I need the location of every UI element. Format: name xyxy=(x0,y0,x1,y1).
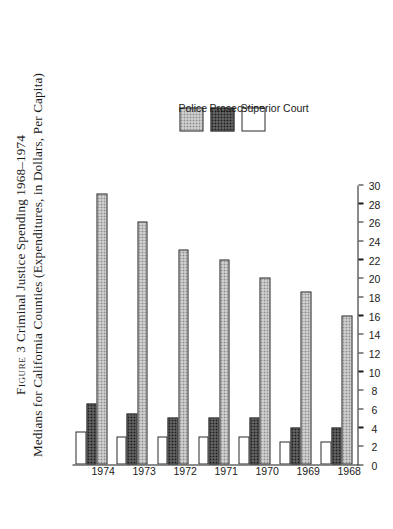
bar-police-1970 xyxy=(259,277,270,464)
axis-tick xyxy=(358,184,363,185)
category-label-1973: 1973 xyxy=(132,464,155,476)
axis-tick-label: 20 xyxy=(368,272,380,284)
category-label-1969: 1969 xyxy=(296,464,319,476)
category-label-1970: 1970 xyxy=(255,464,278,476)
legend-label-police: Police xyxy=(178,101,207,113)
plot-area: 024681012141618202224262830 196819691970… xyxy=(72,165,358,465)
bar-superior-court-1970 xyxy=(238,436,249,464)
figure-title: Figure 3 Criminal Justice Spending 1968–… xyxy=(12,0,46,529)
bar-police-1969 xyxy=(300,291,311,464)
bar-prosecution-1971 xyxy=(208,417,219,464)
bar-police-1971 xyxy=(219,259,230,464)
figure-number-label: Figure 3 xyxy=(12,345,27,395)
bar-prosecution-1969 xyxy=(290,427,301,464)
axis-tick-label: 8 xyxy=(371,384,377,396)
axis-tick xyxy=(358,333,363,334)
legend-item-superior-court[interactable]: Superior Court xyxy=(238,13,268,131)
figure-title-text: Criminal Justice Spending 1968–1974 xyxy=(12,134,27,345)
category-label-1968: 1968 xyxy=(337,464,360,476)
bar-police-1968 xyxy=(341,315,352,464)
figure-root: Figure 3 Criminal Justice Spending 1968–… xyxy=(0,0,393,529)
category-label-1972: 1972 xyxy=(173,464,196,476)
axis-tick-label: 30 xyxy=(368,179,380,191)
axis-tick-label: 28 xyxy=(368,198,380,210)
bar-group-1973: 1973 xyxy=(113,184,154,464)
bar-group-1969: 1969 xyxy=(276,184,317,464)
bar-police-1973 xyxy=(137,221,148,464)
bar-superior-court-1972 xyxy=(157,436,168,464)
bar-prosecution-1972 xyxy=(167,417,178,464)
bar-superior-court-1968 xyxy=(320,441,331,464)
axis-tick-label: 22 xyxy=(368,254,380,266)
axis-tick-label: 4 xyxy=(371,422,377,434)
axis-tick xyxy=(358,352,363,353)
axis-tick xyxy=(358,445,363,446)
legend-label-superior-court: Superior Court xyxy=(240,101,308,113)
bar-superior-court-1974 xyxy=(75,431,86,464)
axis-tick-label: 14 xyxy=(368,328,380,340)
axis-tick-label: 12 xyxy=(368,347,380,359)
bar-superior-court-1973 xyxy=(116,436,127,464)
axis-tick xyxy=(358,221,363,222)
legend-item-police[interactable]: Police xyxy=(176,13,206,131)
bar-prosecution-1970 xyxy=(249,417,260,464)
axis-tick-label: 18 xyxy=(368,291,380,303)
axis-tick xyxy=(358,426,363,427)
bar-prosecution-1968 xyxy=(331,427,342,464)
bar-prosecution-1973 xyxy=(126,413,137,464)
bar-group-1970: 1970 xyxy=(235,184,276,464)
axis-tick xyxy=(358,408,363,409)
axis-tick xyxy=(358,296,363,297)
bar-superior-court-1971 xyxy=(198,436,209,464)
bar-police-1972 xyxy=(178,249,189,464)
bar-group-1971: 1971 xyxy=(195,184,236,464)
figure-title-line-1: Figure 3 Criminal Justice Spending 1968–… xyxy=(12,0,29,529)
bar-group-1972: 1972 xyxy=(154,184,195,464)
axis-tick-label: 26 xyxy=(368,216,380,228)
axis-tick xyxy=(358,314,363,315)
bar-prosecution-1974 xyxy=(86,403,97,464)
axis-tick-label: 16 xyxy=(368,310,380,322)
figure-title-line-2: Medians for California Counties (Expendi… xyxy=(29,0,46,529)
axis-tick-label: 10 xyxy=(368,366,380,378)
bar-police-1974 xyxy=(96,193,107,464)
axis-tick xyxy=(358,240,363,241)
bar-superior-court-1969 xyxy=(279,441,290,464)
legend-item-prosecution[interactable]: Prosecution xyxy=(207,13,237,131)
axis-tick-label: 24 xyxy=(368,235,380,247)
bar-group-1968: 1968 xyxy=(317,184,358,464)
axis-tick xyxy=(358,277,363,278)
category-label-1971: 1971 xyxy=(214,464,237,476)
axis-tick-label: 2 xyxy=(371,440,377,452)
chart-legend: PoliceProsecutionSuperior Court xyxy=(176,13,272,131)
category-label-1974: 1974 xyxy=(91,464,114,476)
axis-tick xyxy=(358,389,363,390)
bar-group-1974: 1974 xyxy=(72,184,113,464)
axis-tick-label: 0 xyxy=(371,459,377,471)
axis-tick xyxy=(358,202,363,203)
axis-tick xyxy=(358,370,363,371)
axis-tick-label: 6 xyxy=(371,403,377,415)
axis-tick xyxy=(358,258,363,259)
